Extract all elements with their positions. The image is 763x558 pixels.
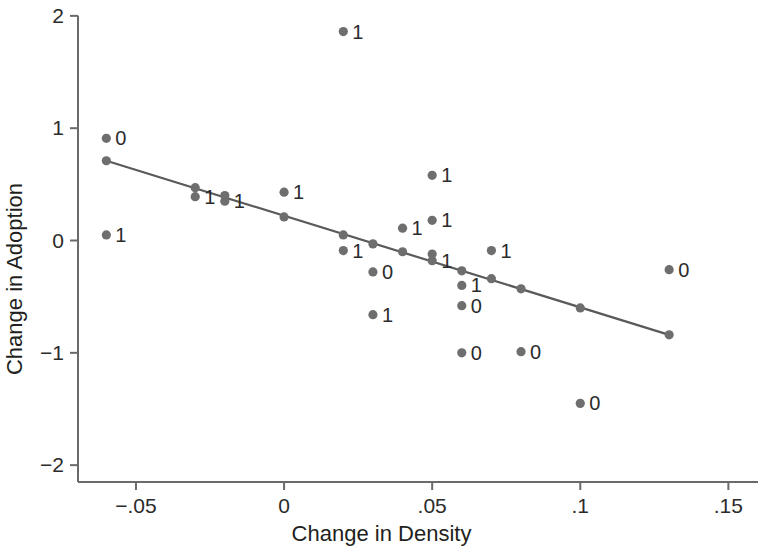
axes [70,16,758,490]
data-point [102,156,111,165]
data-point [102,134,111,143]
data-point-label: 0 [678,258,689,281]
data-point-label: 0 [589,392,600,415]
data-point [457,266,466,275]
data-point [398,224,407,233]
data-point-label: 1 [352,239,363,262]
data-point [665,330,674,339]
data-point [576,399,585,408]
data-point-label: 1 [204,185,215,208]
data-point-label: 1 [441,249,452,272]
data-point [279,188,288,197]
data-point [191,192,200,201]
data-point [516,284,525,293]
data-point [102,230,111,239]
data-point-label: 1 [441,209,452,232]
data-point-label: 1 [441,164,452,187]
data-point [457,348,466,357]
data-point [191,183,200,192]
data-point [368,310,377,319]
data-point [576,303,585,312]
x-axis-tick-label: .1 [572,494,590,518]
data-point-label: 1 [500,239,511,262]
data-point [398,247,407,256]
x-axis-tick-label: −.05 [115,494,156,518]
data-point [516,347,525,356]
data-point [487,246,496,255]
data-point-label: 1 [352,20,363,43]
data-point [487,274,496,283]
data-point-label: 1 [234,190,245,213]
x-axis-tick-label: .05 [418,494,447,518]
data-point [665,265,674,274]
x-axis-title: Change in Density [0,521,763,547]
data-point-label: 0 [530,340,541,363]
data-point [457,281,466,290]
data-point-label: 1 [115,223,126,246]
data-point [428,216,437,225]
data-point-label: 1 [293,181,304,204]
data-point [279,212,288,221]
x-axis-tick-label: .15 [714,494,743,518]
scatter-plot-figure: 210−1−2 −.050.05.1.15 011111101111110010… [0,0,763,558]
data-point [339,230,348,239]
y-axis-title: Change in Adoption [0,0,30,558]
data-point [339,246,348,255]
data-point [368,267,377,276]
data-point [368,239,377,248]
data-point-label: 1 [412,217,423,240]
data-point-label: 0 [471,341,482,364]
data-point-label: 0 [471,294,482,317]
data-point-label: 1 [382,303,393,326]
data-point-label: 0 [115,127,126,150]
data-points [102,27,674,408]
x-axis-tick-label: 0 [278,494,290,518]
data-point [220,197,229,206]
data-point [339,27,348,36]
data-point [428,256,437,265]
data-point [428,171,437,180]
data-point-label: 0 [382,260,393,283]
data-point [457,301,466,310]
